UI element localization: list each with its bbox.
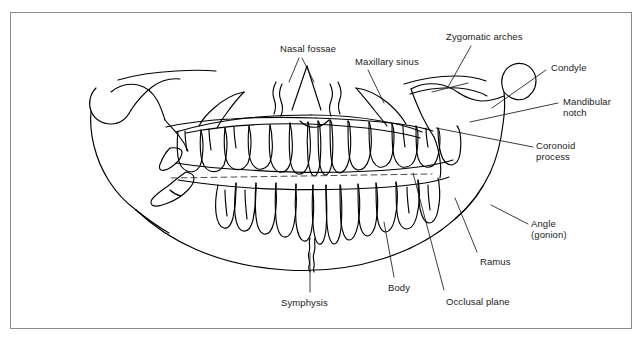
label-ramus: Ramus — [480, 256, 511, 267]
label-body: Body — [388, 282, 410, 293]
lower-tooth-LL5 — [255, 183, 276, 234]
label-zygomatic-arches: Zygomatic arches — [446, 31, 523, 42]
label-maxillary-sinus: Maxillary sinus — [355, 56, 419, 67]
leader-condyle — [492, 70, 546, 108]
lower-tooth-LL3 — [295, 184, 313, 241]
left-ramus-posterior-border — [91, 111, 136, 210]
right-zygomatic-arch-line-2 — [410, 88, 487, 96]
figure-root: Nasal fossae Maxillary sinus Zygomatic a… — [0, 0, 644, 342]
leader-coronoid-process — [436, 128, 533, 147]
label-symphysis: Symphysis — [281, 297, 328, 308]
label-condyle: Condyle — [551, 62, 587, 73]
upper-tooth-UL6-root — [234, 127, 236, 148]
lower-tooth-LR7-root — [428, 185, 430, 210]
upper-tooth-UL7-root — [209, 129, 211, 150]
lower-tooth-LL8-cusp — [170, 190, 181, 196]
leader-angle-gonion — [491, 205, 528, 224]
leader-maxillary-sinus — [368, 70, 384, 103]
maxillary-sinus-left-outline — [217, 92, 244, 128]
label-coronoid-process: Coronoid process — [536, 140, 575, 162]
symphysis-line-2 — [313, 238, 315, 272]
left-mandibular-angle-curve — [136, 210, 169, 233]
lower-tooth-LR1 — [326, 185, 342, 244]
nasal-fossa-left-wall — [273, 82, 276, 114]
leader-nasal-fossae-left — [289, 58, 299, 82]
left-zygomatic-arch-line — [118, 70, 216, 80]
nasal-fossa-right-wall — [338, 82, 341, 114]
lower-tooth-LR4 — [358, 183, 378, 236]
leader-nasal-fossae-right — [302, 58, 314, 82]
lower-tooth-LL8-impacted — [151, 172, 194, 206]
lower-tooth-LR5 — [376, 182, 397, 232]
right-condyle-head — [502, 63, 536, 99]
lower-tooth-LL4 — [275, 183, 296, 237]
upper-tooth-UL6 — [224, 126, 251, 170]
left-condyle-outline — [90, 88, 131, 124]
occlusal-plane-dashed-line — [171, 174, 432, 178]
right-sigmoid-notch — [459, 93, 504, 101]
leader-lines-group — [289, 46, 558, 292]
nasal-fossa-right-inner — [330, 84, 333, 116]
upper-tooth-UR7-root — [426, 128, 428, 147]
upper-tooth-UL7 — [200, 128, 227, 172]
left-sigmoid-notch — [111, 84, 165, 120]
leader-ramus — [455, 198, 477, 252]
lower-tooth-LL1 — [312, 185, 327, 244]
upper-tooth-UR6-root — [403, 126, 405, 147]
lower-tooth-LR6-root — [407, 187, 409, 213]
maxilla-hard-palate-line — [186, 124, 420, 138]
label-nasal-fossae: Nasal fossae — [280, 43, 336, 54]
mandibular-angle-curve — [455, 186, 483, 219]
lower-tooth-LL6-root — [245, 190, 247, 219]
nasal-fossa-left-inner — [280, 84, 283, 116]
upper-tooth-UL8-root — [185, 131, 187, 151]
left-coronoid-process — [131, 79, 180, 110]
lower-tooth-LR3 — [340, 184, 360, 240]
leader-zygomatic-arches — [448, 46, 471, 87]
leader-mandibular-notch — [470, 103, 558, 122]
lower-tooth-LL7-root — [225, 190, 227, 216]
label-angle-gonion: Angle (gonion) — [531, 218, 567, 240]
nasal-septum — [292, 66, 307, 110]
label-occlusal-plane: Occlusal plane — [446, 296, 510, 307]
right-zygomatic-arch-line — [404, 76, 486, 84]
label-mandibular-notch: Mandibular notch — [563, 96, 611, 118]
